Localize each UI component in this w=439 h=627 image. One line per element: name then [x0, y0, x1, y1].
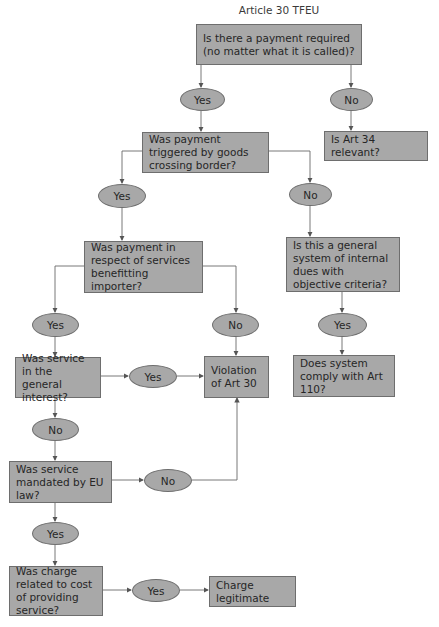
answer-yes-services: Yes: [32, 313, 79, 337]
node-art34: Is Art 34 relevant?: [324, 131, 428, 161]
node-mandated-eu: Was service mandated by EU law?: [9, 461, 112, 503]
node-label: Was charge related to cost of providing …: [16, 565, 96, 617]
answer-label: Yes: [148, 585, 165, 597]
answer-yes-mandated: Yes: [32, 522, 79, 545]
node-label: Does system comply with Art 110?: [300, 357, 388, 396]
answer-yes-cost: Yes: [132, 579, 180, 602]
node-triggered-border: Was payment triggered by goods crossing …: [142, 132, 269, 173]
node-label: Was payment triggered by goods crossing …: [149, 133, 262, 172]
answer-label: Yes: [334, 319, 351, 331]
node-legitimate: Charge legitimate: [209, 576, 296, 607]
answer-yes-border: Yes: [98, 184, 146, 208]
answer-no-general-interest: No: [32, 418, 79, 441]
answer-label: No: [228, 319, 242, 331]
answer-label: Yes: [114, 190, 131, 202]
node-label: Is this a general system of internal due…: [293, 239, 393, 291]
node-label: Was payment in respect of services benef…: [91, 241, 196, 293]
node-label: Is Art 34 relevant?: [331, 133, 421, 159]
node-cost-related: Was charge related to cost of providing …: [9, 566, 103, 616]
node-general-system: Is this a general system of internal due…: [286, 237, 400, 292]
node-violation: Violation of Art 30: [204, 356, 269, 398]
answer-label: No: [344, 94, 358, 106]
node-payment-required: Is there a payment required (no matter w…: [196, 24, 362, 65]
answer-label: No: [48, 424, 62, 436]
answer-no-border: No: [289, 183, 332, 206]
node-label: Is there a payment required (no matter w…: [203, 32, 355, 58]
answer-label: Yes: [145, 371, 162, 383]
answer-label: Yes: [47, 319, 64, 331]
node-label: Was service in the general interest?: [22, 352, 94, 404]
answer-no-payment: No: [330, 88, 373, 111]
node-general-interest: Was service in the general interest?: [15, 357, 101, 398]
answer-label: No: [161, 475, 175, 487]
node-label: Violation of Art 30: [211, 364, 262, 390]
answer-no-mandated: No: [144, 469, 192, 492]
answer-no-services: No: [212, 313, 259, 337]
node-art110: Does system comply with Art 110?: [293, 355, 395, 397]
answer-yes-general-interest: Yes: [129, 365, 177, 388]
answer-label: Yes: [194, 94, 211, 106]
answer-yes-general-system: Yes: [318, 313, 367, 337]
answer-label: Yes: [47, 528, 64, 540]
node-label: Charge legitimate: [216, 579, 289, 605]
answer-label: No: [303, 189, 317, 201]
answer-yes-payment: Yes: [180, 88, 225, 111]
node-services-importer: Was payment in respect of services benef…: [84, 241, 203, 293]
node-label: Was service mandated by EU law?: [16, 463, 105, 502]
